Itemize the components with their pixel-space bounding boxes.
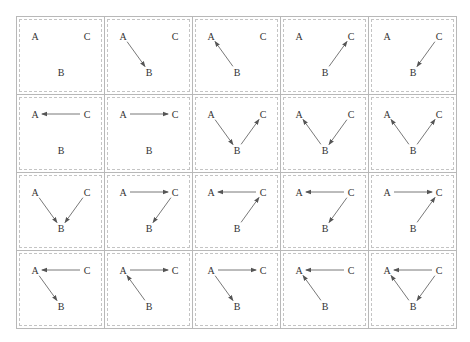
node-a: A [383,31,391,42]
node-a: A [383,265,391,276]
node-a: A [31,187,39,198]
node-a: A [383,109,391,120]
graph-cell: ABC [369,173,457,251]
edge-arrow-b-to-a [303,276,321,301]
graph-cell: ABC [105,173,193,251]
node-a: A [207,265,215,276]
node-c: C [436,109,443,120]
node-c: C [260,187,267,198]
node-b: B [322,223,329,234]
node-c: C [260,265,267,276]
node-b: B [410,145,417,156]
graph-cell: ABC [369,95,457,173]
graph-cell: ABC [105,17,193,95]
node-c: C [348,109,355,120]
graph-cell: ABC [193,251,281,329]
node-b: B [410,301,417,312]
edge-arrow-b-to-c [329,42,347,67]
node-b: B [146,223,153,234]
edge-arrow-a-to-b [127,42,145,67]
node-a: A [383,187,391,198]
edge-arrow-b-to-c [417,198,435,223]
edge-arrow-c-to-b [417,276,435,301]
node-c: C [84,187,91,198]
node-b: B [234,223,241,234]
edge-arrow-c-to-b [417,42,435,67]
edge-arrow-b-to-a [391,276,409,301]
edge-arrow-b-to-a [127,276,145,301]
node-c: C [84,31,91,42]
node-c: C [436,187,443,198]
node-a: A [119,109,127,120]
node-b: B [146,301,153,312]
node-c: C [348,31,355,42]
graph-cell: ABC [281,17,369,95]
edge-arrow-b-to-c [241,198,259,223]
graph-cell: ABC [17,17,105,95]
node-b: B [146,67,153,78]
graph-cell: ABC [105,95,193,173]
node-a: A [119,31,127,42]
node-a: A [207,187,215,198]
node-a: A [207,31,215,42]
graph-cell: ABC [281,251,369,329]
edge-arrow-b-to-c [417,120,435,145]
graph-cell: ABC [17,173,105,251]
graph-cell: ABC [281,173,369,251]
node-c: C [348,265,355,276]
node-b: B [322,301,329,312]
graph-cell: ABC [369,17,457,95]
graph-grid: ABCABCABCABCABCABCABCABCABCABCABCABCABCA… [16,16,457,329]
edge-arrow-b-to-c [241,120,259,145]
node-c: C [436,31,443,42]
edge-arrow-c-to-b [65,198,83,223]
node-b: B [58,145,65,156]
graph-cell: ABC [105,251,193,329]
node-b: B [410,67,417,78]
node-c: C [84,109,91,120]
edge-arrow-b-to-a [215,42,233,67]
node-b: B [234,145,241,156]
edge-arrow-c-to-b [329,120,347,145]
node-a: A [31,109,39,120]
node-b: B [58,223,65,234]
node-c: C [260,31,267,42]
edge-arrow-b-to-a [391,120,409,145]
node-a: A [119,265,127,276]
node-a: A [207,109,215,120]
node-c: C [172,265,179,276]
edge-arrow-c-to-b [153,198,171,223]
node-b: B [58,67,65,78]
node-c: C [172,187,179,198]
node-a: A [295,31,303,42]
node-b: B [234,67,241,78]
node-c: C [348,187,355,198]
node-b: B [322,145,329,156]
node-b: B [322,67,329,78]
edge-arrow-c-to-b [329,198,347,223]
node-a: A [31,31,39,42]
node-c: C [260,109,267,120]
graph-cell: ABC [281,95,369,173]
node-b: B [234,301,241,312]
edge-arrow-b-to-a [303,120,321,145]
node-c: C [84,265,91,276]
node-a: A [31,265,39,276]
node-a: A [119,187,127,198]
edge-arrow-a-to-b [39,198,57,223]
node-b: B [146,145,153,156]
node-c: C [172,109,179,120]
edge-arrow-a-to-b [39,276,57,301]
graph-cell: ABC [193,95,281,173]
node-a: A [295,265,303,276]
graph-cell: ABC [17,95,105,173]
graph-cell: ABC [369,251,457,329]
node-c: C [436,265,443,276]
graph-cell: ABC [17,251,105,329]
graph-cell: ABC [193,173,281,251]
node-b: B [58,301,65,312]
node-a: A [295,187,303,198]
node-a: A [295,109,303,120]
graph-cell: ABC [193,17,281,95]
edge-arrow-a-to-b [215,120,233,145]
